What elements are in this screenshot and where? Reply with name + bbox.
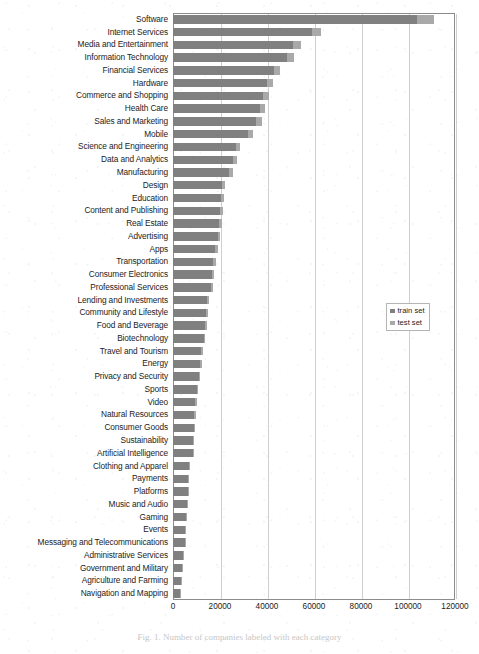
stacked-bar[interactable] [173, 283, 213, 291]
stacked-bar[interactable] [173, 334, 205, 342]
bar-segment-train-set[interactable] [173, 104, 260, 112]
bar-segment-test-set[interactable] [274, 66, 280, 74]
bar-segment-test-set[interactable] [248, 130, 253, 138]
stacked-bar[interactable] [173, 564, 183, 572]
stacked-bar[interactable] [173, 41, 301, 49]
bar-segment-train-set[interactable] [173, 449, 193, 457]
bar-segment-train-set[interactable] [173, 577, 181, 585]
bar-segment-test-set[interactable] [215, 245, 218, 253]
bar-segment-test-set[interactable] [204, 334, 206, 342]
stacked-bar[interactable] [173, 551, 183, 559]
bar-segment-train-set[interactable] [173, 219, 219, 227]
bar-segment-train-set[interactable] [173, 424, 194, 432]
bar-segment-train-set[interactable] [173, 526, 185, 534]
bar-segment-test-set[interactable] [417, 15, 433, 23]
bar-segment-train-set[interactable] [173, 181, 222, 189]
stacked-bar[interactable] [173, 296, 209, 304]
stacked-bar[interactable] [173, 513, 187, 521]
stacked-bar[interactable] [173, 156, 237, 164]
bar-segment-test-set[interactable] [260, 104, 265, 112]
stacked-bar[interactable] [173, 143, 240, 151]
stacked-bar[interactable] [173, 500, 188, 508]
stacked-bar[interactable] [173, 385, 198, 393]
stacked-bar[interactable] [173, 411, 196, 419]
bar-segment-test-set[interactable] [211, 283, 213, 291]
bar-segment-test-set[interactable] [218, 232, 221, 240]
bar-segment-train-set[interactable] [173, 207, 220, 215]
bar-segment-test-set[interactable] [267, 79, 273, 87]
bar-segment-test-set[interactable] [195, 398, 196, 406]
bar-segment-train-set[interactable] [173, 245, 215, 253]
bar-segment-train-set[interactable] [173, 79, 267, 87]
bar-segment-train-set[interactable] [173, 513, 186, 521]
bar-segment-test-set[interactable] [221, 194, 224, 202]
bar-segment-train-set[interactable] [173, 156, 233, 164]
bar-segment-train-set[interactable] [173, 347, 201, 355]
stacked-bar[interactable] [173, 15, 434, 23]
bar-segment-test-set[interactable] [219, 219, 222, 227]
bar-segment-train-set[interactable] [173, 41, 293, 49]
stacked-bar[interactable] [173, 28, 321, 36]
stacked-bar[interactable] [173, 232, 220, 240]
bar-segment-test-set[interactable] [185, 538, 186, 546]
bar-segment-test-set[interactable] [233, 156, 237, 164]
stacked-bar[interactable] [173, 104, 265, 112]
bar-segment-train-set[interactable] [173, 130, 248, 138]
stacked-bar[interactable] [173, 449, 194, 457]
bar-segment-test-set[interactable] [183, 551, 184, 559]
bar-segment-test-set[interactable] [213, 258, 216, 266]
stacked-bar[interactable] [173, 194, 224, 202]
bar-segment-train-set[interactable] [173, 270, 212, 278]
bar-segment-test-set[interactable] [263, 92, 269, 100]
bar-segment-train-set[interactable] [173, 589, 180, 597]
bar-segment-test-set[interactable] [188, 487, 189, 495]
stacked-bar[interactable] [173, 360, 202, 368]
chart-legend[interactable]: train set test set [386, 303, 430, 331]
legend-item-test-set[interactable]: test set [390, 319, 425, 327]
bar-segment-test-set[interactable] [188, 475, 189, 483]
stacked-bar[interactable] [173, 424, 195, 432]
bar-segment-train-set[interactable] [173, 258, 213, 266]
stacked-bar[interactable] [173, 321, 207, 329]
stacked-bar[interactable] [173, 258, 216, 266]
bar-segment-test-set[interactable] [256, 117, 261, 125]
stacked-bar[interactable] [173, 577, 182, 585]
stacked-bar[interactable] [173, 66, 280, 74]
stacked-bar[interactable] [173, 436, 194, 444]
bar-segment-train-set[interactable] [173, 360, 200, 368]
bar-segment-test-set[interactable] [193, 436, 194, 444]
stacked-bar[interactable] [173, 475, 189, 483]
bar-segment-train-set[interactable] [173, 92, 263, 100]
stacked-bar[interactable] [173, 589, 181, 597]
bar-segment-test-set[interactable] [189, 462, 190, 470]
bar-segment-test-set[interactable] [186, 513, 187, 521]
bar-segment-train-set[interactable] [173, 385, 197, 393]
bar-segment-train-set[interactable] [173, 487, 188, 495]
bar-segment-test-set[interactable] [181, 577, 182, 585]
stacked-bar[interactable] [173, 79, 273, 87]
bar-segment-test-set[interactable] [236, 143, 240, 151]
bar-segment-train-set[interactable] [173, 117, 256, 125]
bar-segment-train-set[interactable] [173, 411, 194, 419]
stacked-bar[interactable] [173, 219, 222, 227]
bar-segment-train-set[interactable] [173, 436, 193, 444]
stacked-bar[interactable] [173, 398, 197, 406]
bar-segment-test-set[interactable] [187, 500, 188, 508]
bar-segment-test-set[interactable] [199, 372, 201, 380]
stacked-bar[interactable] [173, 53, 294, 61]
bar-segment-test-set[interactable] [194, 424, 195, 432]
bar-segment-test-set[interactable] [229, 168, 233, 176]
bar-segment-test-set[interactable] [287, 53, 294, 61]
bar-segment-train-set[interactable] [173, 53, 287, 61]
bar-segment-test-set[interactable] [206, 309, 208, 317]
bar-segment-train-set[interactable] [173, 283, 211, 291]
stacked-bar[interactable] [173, 347, 203, 355]
bar-segment-test-set[interactable] [220, 207, 223, 215]
stacked-bar[interactable] [173, 372, 200, 380]
stacked-bar[interactable] [173, 309, 208, 317]
bar-segment-test-set[interactable] [194, 411, 195, 419]
bar-segment-train-set[interactable] [173, 551, 183, 559]
stacked-bar[interactable] [173, 181, 225, 189]
bar-segment-test-set[interactable] [212, 270, 214, 278]
bar-segment-test-set[interactable] [293, 41, 301, 49]
